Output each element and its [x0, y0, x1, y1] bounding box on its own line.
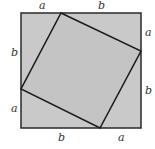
label-right-a: a: [145, 26, 152, 39]
label-top-a: a: [39, 0, 46, 12]
label-left-b: b: [11, 46, 18, 59]
pythagorean-diagram: a b a b b a b a: [0, 0, 155, 149]
label-top-b: b: [98, 0, 105, 12]
label-left-a: a: [11, 102, 18, 115]
label-bottom-b: b: [58, 131, 65, 144]
label-right-b: b: [145, 84, 152, 97]
label-bottom-a: a: [118, 131, 125, 144]
